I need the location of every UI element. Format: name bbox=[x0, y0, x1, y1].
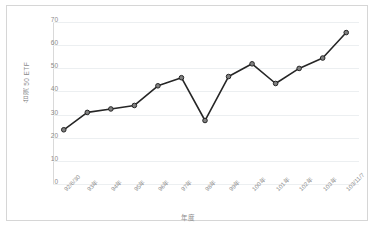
chart-frame: 台灣 50 ETF 年度 01020304050607092/6/3093年94… bbox=[6, 5, 368, 221]
y-axis-tick-label: 70 bbox=[28, 17, 58, 24]
y-axis-tick-label: 20 bbox=[28, 133, 58, 140]
y-axis-tick-label: 0 bbox=[28, 179, 58, 186]
gridline bbox=[53, 68, 359, 69]
y-axis-tick-label: 10 bbox=[28, 156, 58, 163]
gridline bbox=[53, 115, 359, 116]
gridline bbox=[53, 22, 359, 23]
gridline bbox=[53, 138, 359, 139]
y-axis-tick-label: 40 bbox=[28, 86, 58, 93]
gridline bbox=[53, 91, 359, 92]
gridline bbox=[53, 161, 359, 162]
gridline bbox=[53, 45, 359, 46]
y-axis-tick-label: 50 bbox=[28, 63, 58, 70]
y-axis-tick-label: 60 bbox=[28, 40, 58, 47]
plot-area bbox=[53, 22, 359, 184]
y-axis-tick-label: 30 bbox=[28, 110, 58, 117]
x-axis-title: 年度 bbox=[7, 212, 369, 222]
